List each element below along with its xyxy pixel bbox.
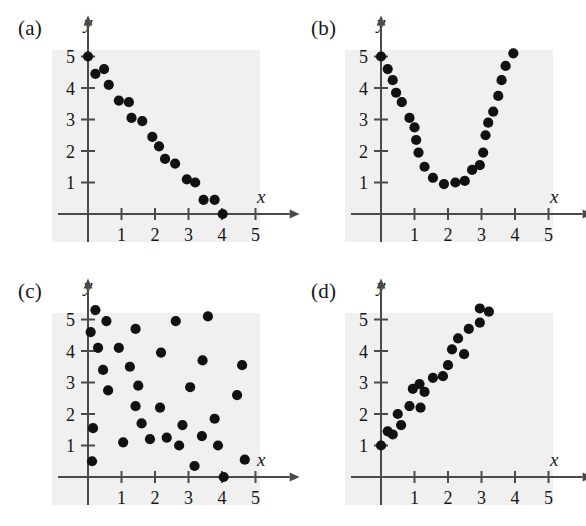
data-point: [90, 69, 100, 79]
data-point: [450, 177, 460, 187]
panel-c: (c) y x 1234512345: [0, 263, 293, 526]
y-axis-tick-label: 5: [66, 47, 75, 67]
data-point: [438, 371, 448, 381]
data-point: [460, 176, 470, 186]
data-point: [480, 130, 490, 140]
data-point: [404, 401, 414, 411]
y-axis-tick-label: 1: [66, 436, 75, 456]
data-point: [383, 64, 393, 74]
data-point: [210, 414, 220, 424]
data-point: [411, 135, 421, 145]
data-point: [185, 382, 195, 392]
data-point: [447, 344, 457, 354]
data-point: [130, 401, 140, 411]
panel-d-label: (d): [311, 279, 336, 304]
data-point: [419, 387, 429, 397]
y-axis-tick-label: 1: [359, 173, 368, 193]
x-axis-tick-label: 1: [117, 225, 126, 245]
data-point: [203, 311, 213, 321]
data-point: [428, 373, 438, 383]
data-point: [388, 75, 398, 85]
y-axis-tick-label: 4: [359, 342, 368, 362]
data-point: [87, 456, 97, 466]
x-axis-tick-label: 5: [544, 225, 553, 245]
x-axis-tick-label: 4: [511, 225, 520, 245]
data-point: [177, 420, 187, 430]
data-point: [428, 173, 438, 183]
data-point: [137, 418, 147, 428]
panel-d-plot: y x 1234512345: [345, 301, 567, 513]
data-point: [103, 385, 113, 395]
data-point: [197, 431, 207, 441]
data-point: [240, 455, 250, 465]
panel-c-label: (c): [18, 279, 42, 304]
data-point: [396, 420, 406, 430]
data-point: [501, 61, 511, 71]
data-point: [483, 118, 493, 128]
panel-b-label: (b): [311, 16, 336, 41]
data-point: [130, 324, 140, 334]
data-point: [101, 316, 111, 326]
data-point: [145, 434, 155, 444]
data-point: [147, 132, 157, 142]
scatterplot-figure: (a) y x 1234512345 (b) y x 1234512345 (c…: [0, 0, 586, 526]
data-point: [174, 440, 184, 450]
data-point: [508, 48, 518, 58]
y-axis-tick-label: 2: [66, 142, 75, 162]
data-point: [104, 80, 114, 90]
x-axis-tick-label: 4: [218, 225, 227, 245]
data-point: [397, 97, 407, 107]
x-axis-tick-label: 1: [117, 488, 126, 508]
y-axis-tick-label: 3: [359, 110, 368, 130]
data-point: [197, 355, 207, 365]
y-axis-tick-label: 4: [66, 79, 75, 99]
data-point: [162, 433, 172, 443]
x-axis-tick-label: 5: [251, 225, 260, 245]
data-point: [464, 324, 474, 334]
data-point: [413, 147, 423, 157]
data-point: [90, 305, 100, 315]
data-point: [415, 403, 425, 413]
data-point: [170, 159, 180, 169]
data-point: [189, 461, 199, 471]
data-point: [475, 318, 485, 328]
x-axis-tick-label: 5: [544, 488, 553, 508]
data-point: [443, 360, 453, 370]
y-axis-tick-label: 3: [359, 373, 368, 393]
y-axis-tick-label: 1: [359, 436, 368, 456]
data-point: [171, 316, 181, 326]
y-axis-tick-label: 3: [66, 110, 75, 130]
data-point: [439, 179, 449, 189]
panel-d-svg: 1234512345: [345, 301, 567, 513]
data-point: [404, 113, 414, 123]
panel-a-svg: 1234512345: [52, 38, 274, 250]
data-point: [376, 51, 386, 61]
data-point: [99, 64, 109, 74]
data-point: [475, 303, 485, 313]
panel-c-plot: y x 1234512345: [52, 301, 274, 513]
data-point: [88, 423, 98, 433]
x-axis-tick-label: 2: [151, 225, 160, 245]
data-point: [475, 160, 485, 170]
x-axis-tick-label: 2: [444, 225, 453, 245]
y-axis-tick-label: 2: [66, 405, 75, 425]
data-point: [237, 360, 247, 370]
data-point: [391, 88, 401, 98]
panel-b-plot: y x 1234512345: [345, 38, 567, 250]
data-point: [393, 409, 403, 419]
y-axis-tick-label: 2: [359, 142, 368, 162]
x-axis-tick-label: 4: [218, 488, 227, 508]
data-point: [154, 141, 164, 151]
panel-d: (d) y x 1234512345: [293, 263, 586, 526]
y-axis-tick-label: 4: [359, 79, 368, 99]
data-point: [213, 440, 223, 450]
data-point: [98, 365, 108, 375]
data-point: [232, 390, 242, 400]
data-point: [497, 75, 507, 85]
panel-c-svg: 1234512345: [52, 301, 274, 513]
x-axis-tick-label: 2: [151, 488, 160, 508]
x-axis-tick-label: 1: [410, 488, 419, 508]
data-point: [86, 327, 96, 337]
x-axis-tick-label: 3: [184, 488, 193, 508]
data-point: [190, 177, 200, 187]
